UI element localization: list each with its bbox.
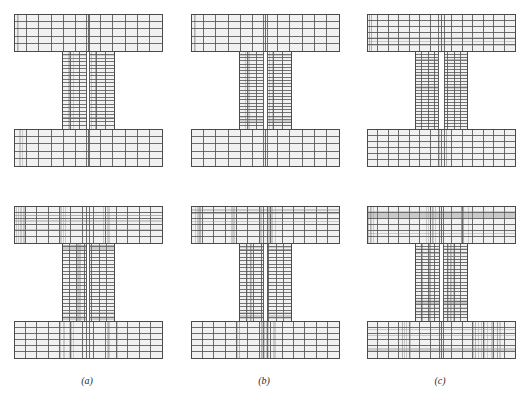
mesh-panel-top-a: [13, 13, 163, 167]
mesh-panel-top-c: [366, 13, 516, 167]
figure-mesh-grid: (a)(b)(c): [0, 0, 523, 400]
caption-b: (b): [234, 375, 294, 386]
caption-c: (c): [410, 375, 470, 386]
mesh-panel-top-b: [190, 13, 340, 167]
mesh-panel-bottom-b: [190, 205, 340, 359]
mesh-panel-bottom-c: [366, 205, 516, 359]
caption-a: (a): [57, 375, 117, 386]
mesh-panel-bottom-a: [13, 205, 163, 359]
